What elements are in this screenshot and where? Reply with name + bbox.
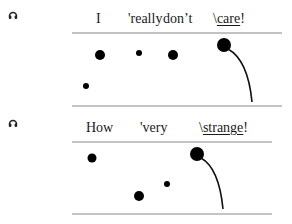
syllable-dot [88,154,97,163]
syllable-dot [164,181,170,187]
pitch-contour-panel [0,0,292,224]
falling-tone-curve [201,158,223,209]
syllable-dot [134,191,144,201]
